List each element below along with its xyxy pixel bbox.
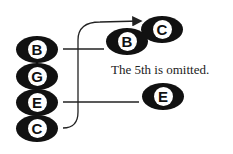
note-letter: B — [32, 42, 43, 57]
flat-icon: ♭ — [45, 51, 49, 60]
note-e-right: E — [142, 83, 184, 110]
note-letter: C — [157, 22, 168, 37]
note-bflat-left: B♭ — [16, 36, 58, 63]
note-letter: B — [122, 34, 133, 49]
note-letter: E — [158, 89, 168, 104]
caption-text: The 5th is omitted. — [111, 62, 209, 78]
note-bflat-right: B♭ — [106, 28, 148, 55]
note-g-left: G — [16, 63, 58, 90]
voicing-diagram: B♭ G E C C B♭ E The 5th is omitted. — [0, 0, 233, 154]
note-letter: G — [31, 69, 43, 84]
note-c-left: C — [16, 115, 58, 142]
note-letter: C — [32, 121, 43, 136]
note-e-left: E — [16, 89, 58, 116]
note-letter: E — [32, 95, 42, 110]
flat-icon: ♭ — [135, 43, 139, 52]
